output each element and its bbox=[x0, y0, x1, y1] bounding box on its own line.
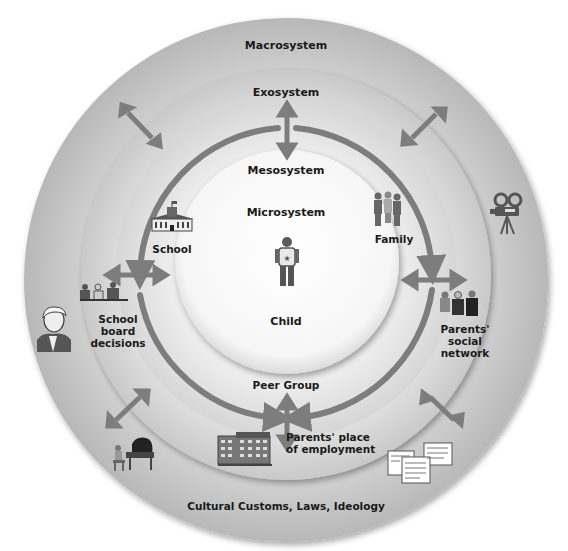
school-board-line-2: board bbox=[78, 325, 158, 337]
macrosystem-title: Macrosystem bbox=[236, 40, 336, 53]
parents-social-network-label: Parents' social network bbox=[430, 323, 500, 359]
school-board-decisions-label: School board decisions bbox=[78, 313, 158, 349]
social-network-line-3: network bbox=[430, 347, 500, 359]
school-label: School bbox=[147, 243, 197, 255]
parents-employment-label: Parents' place of employment bbox=[286, 431, 370, 455]
diagram-rings: ★ bbox=[0, 0, 568, 551]
social-network-line-1: Parents' bbox=[430, 323, 500, 335]
peer-group-label: Peer Group bbox=[246, 379, 326, 391]
school-board-line-1: School bbox=[78, 313, 158, 325]
employment-line-1: Parents' place bbox=[286, 431, 370, 443]
mesosystem-title: Mesosystem bbox=[236, 165, 336, 178]
social-network-line-2: social bbox=[430, 335, 500, 347]
child-label: Child bbox=[256, 316, 316, 329]
exosystem-title: Exosystem bbox=[236, 87, 336, 100]
microsystem-title: Microsystem bbox=[236, 207, 336, 220]
employment-line-2: of employment bbox=[286, 443, 370, 455]
office-building-icon bbox=[218, 432, 272, 466]
macrosystem-caption: Cultural Customs, Laws, Ideology bbox=[186, 500, 386, 512]
ecological-systems-diagram: ★ bbox=[0, 0, 568, 551]
family-icon bbox=[374, 192, 401, 227]
family-label: Family bbox=[369, 233, 419, 245]
school-board-line-3: decisions bbox=[78, 337, 158, 349]
svg-text:★: ★ bbox=[283, 254, 290, 263]
